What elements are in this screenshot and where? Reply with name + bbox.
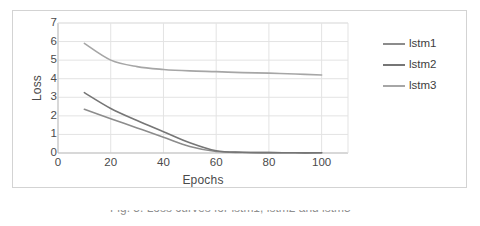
legend-label-lstm3: lstm3 — [409, 80, 436, 92]
y-tick-4: 4 — [43, 73, 57, 85]
y-tick-2: 2 — [43, 110, 57, 122]
legend-swatch-lstm2 — [383, 64, 405, 66]
legend-label-lstm2: lstm2 — [409, 59, 436, 71]
axis-lines — [58, 23, 348, 153]
x-tick-60: 60 — [199, 157, 233, 169]
x-axis-title: Epochs — [58, 173, 348, 187]
legend-label-lstm1: lstm1 — [409, 38, 436, 50]
legend-swatch-lstm1 — [383, 43, 405, 45]
y-tick-6: 6 — [43, 36, 57, 48]
legend-entry-lstm2[interactable]: lstm2 — [383, 54, 463, 75]
plot-area[interactable] — [58, 23, 348, 153]
x-tick-100: 100 — [305, 157, 339, 169]
chart-frame[interactable]: Loss 01234567 020406080100 Epochs lstm1l… — [12, 10, 467, 188]
series-line-lstm3 — [84, 43, 321, 75]
legend-entry-lstm3[interactable]: lstm3 — [383, 75, 463, 96]
x-tick-0: 0 — [41, 157, 75, 169]
x-axis-tick-labels: 020406080100 — [58, 157, 348, 173]
chart-legend: lstm1lstm2lstm3 — [383, 33, 463, 96]
horizontal-gridlines — [58, 23, 348, 153]
figure-caption-text: Fig. 5. Loss curves for lstm1, lstm2 and… — [110, 210, 351, 215]
x-tick-40: 40 — [147, 157, 181, 169]
figure-caption-cropped: Fig. 5. Loss curves for lstm1, lstm2 and… — [0, 210, 480, 226]
legend-swatch-lstm3 — [383, 85, 405, 87]
y-tick-5: 5 — [43, 54, 57, 66]
x-tick-80: 80 — [252, 157, 286, 169]
y-tick-1: 1 — [43, 128, 57, 140]
loss-curve-figure: Loss 01234567 020406080100 Epochs lstm1l… — [0, 0, 480, 226]
plot-svg — [58, 23, 348, 153]
x-tick-20: 20 — [94, 157, 128, 169]
legend-entry-lstm1[interactable]: lstm1 — [383, 33, 463, 54]
y-tick-7: 7 — [43, 17, 57, 29]
y-tick-3: 3 — [43, 91, 57, 103]
vertical-gridlines — [58, 23, 322, 153]
